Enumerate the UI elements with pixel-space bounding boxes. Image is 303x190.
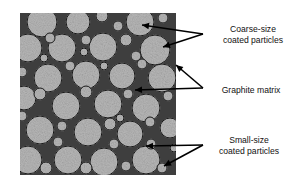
label-small-line1: Small-size <box>204 135 294 146</box>
small-coated-particle <box>40 54 48 62</box>
small-coated-particle <box>116 114 124 122</box>
small-coated-particle <box>113 21 123 31</box>
small-coated-particle <box>80 162 92 174</box>
small-coated-particle <box>123 89 133 99</box>
coarse-coated-particle <box>26 116 54 144</box>
small-coated-particle <box>109 139 119 149</box>
coarse-coated-particle <box>12 86 36 110</box>
small-coated-particle <box>100 62 108 70</box>
label-coarse-line1: Coarse-size <box>208 24 298 35</box>
small-coated-particle <box>120 34 132 46</box>
coarse-coated-particle <box>90 148 118 176</box>
small-coated-particle <box>53 137 63 147</box>
coarse-coated-particle <box>94 90 122 118</box>
small-coated-particle <box>45 33 55 43</box>
label-small-line2: coated particles <box>204 146 294 157</box>
small-coated-particle <box>158 13 168 23</box>
coarse-coated-particle <box>54 146 82 174</box>
small-coated-particle <box>145 117 155 127</box>
coarse-coated-particle <box>72 61 100 89</box>
micrograph-square <box>12 7 180 176</box>
coarse-coated-particle <box>109 63 135 89</box>
small-coated-particle <box>17 111 27 121</box>
label-graphite-line1: Graphite matrix <box>206 85 296 96</box>
small-coated-particle <box>104 118 116 130</box>
coarse-coated-particle <box>160 118 180 138</box>
coarse-coated-particle <box>117 121 143 147</box>
coarse-coated-particle <box>14 146 42 174</box>
small-coated-particle <box>121 161 131 171</box>
small-coated-particle <box>81 35 91 45</box>
coarse-coated-particle <box>132 146 160 174</box>
small-coated-particle <box>96 10 108 22</box>
small-coated-particle <box>17 67 27 77</box>
small-coated-particle <box>57 121 67 131</box>
small-coated-particle <box>137 59 147 69</box>
arrow-line-small <box>146 145 203 146</box>
small-coated-particle <box>65 61 75 71</box>
coarse-coated-particle <box>52 92 80 120</box>
coarse-coated-particle <box>66 10 90 34</box>
small-coated-particle <box>80 48 88 56</box>
label-graphite-matrix: Graphite matrix <box>206 85 296 96</box>
coarse-coated-particle <box>27 7 57 37</box>
coarse-coated-particle <box>74 118 102 146</box>
label-small-particles: Small-size coated particles <box>204 135 294 156</box>
coarse-coated-particle <box>89 33 117 61</box>
coarse-coated-particle <box>126 8 154 36</box>
coarse-coated-particle <box>148 64 176 92</box>
small-coated-particle <box>163 91 173 101</box>
small-coated-particle <box>80 86 92 98</box>
small-coated-particle <box>40 162 52 174</box>
label-coarse-particles: Coarse-size coated particles <box>208 24 298 45</box>
coarse-coated-particle <box>14 34 42 62</box>
small-coated-particle <box>34 88 46 100</box>
coarse-coated-particle <box>132 94 160 122</box>
label-coarse-line2: coated particles <box>208 35 298 46</box>
